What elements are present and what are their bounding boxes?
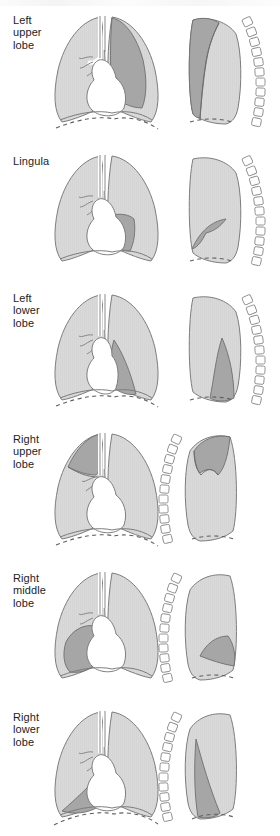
panel-left-upper-lobe: Left upper lobe xyxy=(0,0,280,139)
vertebrae-column xyxy=(242,155,266,266)
frontal-view-left-lower xyxy=(55,294,158,407)
vertebrae-column xyxy=(159,434,182,544)
lateral-view-right-upper xyxy=(159,434,237,544)
lateral-view-lingula xyxy=(189,155,265,266)
frontal-view-lingula xyxy=(55,155,158,261)
vertebrae-column xyxy=(159,712,182,822)
frontal-view-right-lower xyxy=(54,711,158,825)
lateral-view-right-middle xyxy=(159,573,237,683)
vertebrae-column xyxy=(242,16,266,127)
vertebrae-column xyxy=(159,573,182,683)
panel-lingula: Lingula xyxy=(0,139,280,278)
frontal-view-right-middle xyxy=(55,572,158,678)
vertebrae-column xyxy=(242,294,266,405)
panel-right-middle-lobe: Right middle lobe xyxy=(0,556,280,695)
panel-right-upper-lobe: Right upper lobe xyxy=(0,417,280,556)
frontal-view-left-upper xyxy=(55,16,158,129)
lateral-view-left-upper xyxy=(189,16,265,127)
lateral-view-left-lower xyxy=(189,294,265,405)
frontal-view-right-upper xyxy=(55,433,158,546)
lateral-view-right-lower xyxy=(159,712,237,822)
panel-left-lower-lobe: Left lower lobe xyxy=(0,278,280,417)
lung-lobe-figure: Left upper lobe xyxy=(0,0,280,836)
panel-right-lower-lobe: Right lower lobe xyxy=(0,695,280,834)
